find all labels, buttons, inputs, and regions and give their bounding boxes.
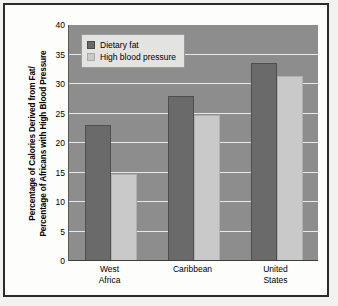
legend-item-high-blood-pressure: High blood pressure [87,51,176,63]
x-axis-line [69,260,318,261]
x-label-line: United [234,264,317,275]
bar-west-africa-dietary-fat [85,125,111,261]
legend-item-dietary-fat: Dietary fat [87,39,176,51]
bar-caribbean-high-blood-pressure [194,115,220,261]
plot-area: Dietary fat High blood pressure [68,25,318,261]
x-label-line: Africa [68,275,151,286]
chart-frame: Percentage of Calories Derived from Fat/… [3,3,329,297]
y-tick-15: 15 [56,168,65,178]
bar-united-states-dietary-fat [251,63,277,261]
x-axis-category-labels: WestAfricaCaribbeanUnitedStates [68,264,317,294]
y-tick-25: 25 [56,109,65,119]
y-axis-tick-labels: 0510152025303540 [43,19,65,261]
bar-group [235,25,318,261]
bar-united-states-high-blood-pressure [277,76,303,261]
y-tick-40: 40 [56,20,65,30]
bar-caribbean-dietary-fat [168,96,194,261]
legend: Dietary fat High blood pressure [81,34,185,68]
y-tick-20: 20 [56,138,65,148]
legend-swatch-high-blood-pressure-icon [87,53,95,61]
x-label-line: Caribbean [151,264,234,275]
y-tick-30: 30 [56,79,65,89]
y-tick-35: 35 [56,50,65,60]
legend-swatch-dietary-fat-icon [87,41,95,49]
legend-label-high-blood-pressure: High blood pressure [100,52,176,62]
x-label-line: West [68,264,151,275]
x-label-west-africa: WestAfrica [68,264,151,286]
bar-west-africa-high-blood-pressure [111,174,137,261]
y-tick-10: 10 [56,197,65,207]
y-tick-0: 0 [60,256,65,266]
x-label-united-states: UnitedStates [234,264,317,286]
x-label-line: States [234,275,317,286]
x-label-caribbean: Caribbean [151,264,234,275]
legend-label-dietary-fat: Dietary fat [100,40,139,50]
y-axis-title-line-1: Percentage of Calories Derived from Fat/ [28,19,39,269]
y-tick-5: 5 [60,227,65,237]
